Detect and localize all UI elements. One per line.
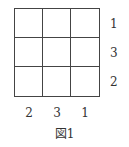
figure-caption: 図1 <box>0 128 129 140</box>
row-label-1: 1 <box>110 18 118 30</box>
grid-cell <box>71 67 99 96</box>
col-label-3: 1 <box>80 107 90 119</box>
grid-cell <box>15 9 43 38</box>
row-label-3: 2 <box>110 76 118 88</box>
row-label-2: 3 <box>110 47 118 59</box>
grid-cell <box>43 9 71 38</box>
grid-cell <box>43 38 71 67</box>
grid-cell <box>71 9 99 38</box>
grid-3x3 <box>14 8 100 97</box>
col-label-1: 2 <box>24 107 34 119</box>
grid-cell <box>15 38 43 67</box>
col-label-2: 3 <box>52 107 62 119</box>
grid-cell <box>43 67 71 96</box>
grid-cell <box>71 38 99 67</box>
grid-cell <box>15 67 43 96</box>
